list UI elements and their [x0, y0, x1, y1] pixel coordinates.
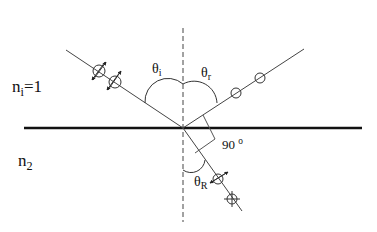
theta-R-sub: R — [201, 180, 208, 191]
theta-i-sub: i — [159, 67, 162, 78]
incident-polarization-marker-2 — [107, 71, 121, 90]
theta-i-arc — [145, 78, 183, 103]
reflected-ray — [183, 49, 304, 128]
n-2-label: n2 — [18, 152, 33, 172]
theta-i-base: θ — [152, 61, 159, 76]
n-i-eq: =1 — [24, 77, 42, 96]
theta-i-label: θi — [152, 62, 162, 78]
right-angle-unit: o — [238, 136, 243, 146]
n-2-sub: 2 — [27, 159, 33, 173]
n-2-base: n — [18, 151, 27, 170]
brewster-angle-diagram — [0, 0, 377, 232]
right-angle-marker — [195, 115, 215, 153]
theta-R-base: θ — [194, 174, 201, 189]
refracted-polarization-marker-1 — [210, 172, 228, 184]
theta-r-base: θ — [201, 65, 208, 80]
incident-polarization-marker-1 — [92, 62, 106, 80]
right-angle-value: 90 — [222, 137, 235, 152]
theta-R-arc — [183, 160, 205, 173]
theta-r-label: θr — [201, 66, 211, 82]
incident-ray — [66, 50, 183, 128]
right-angle-label: 90 o — [222, 137, 243, 151]
n-i-base: n — [12, 77, 21, 96]
theta-r-sub: r — [208, 71, 211, 82]
theta-r-arc — [183, 81, 217, 103]
theta-R-label: θR — [194, 175, 207, 191]
n-i-label: ni=1 — [12, 78, 42, 98]
